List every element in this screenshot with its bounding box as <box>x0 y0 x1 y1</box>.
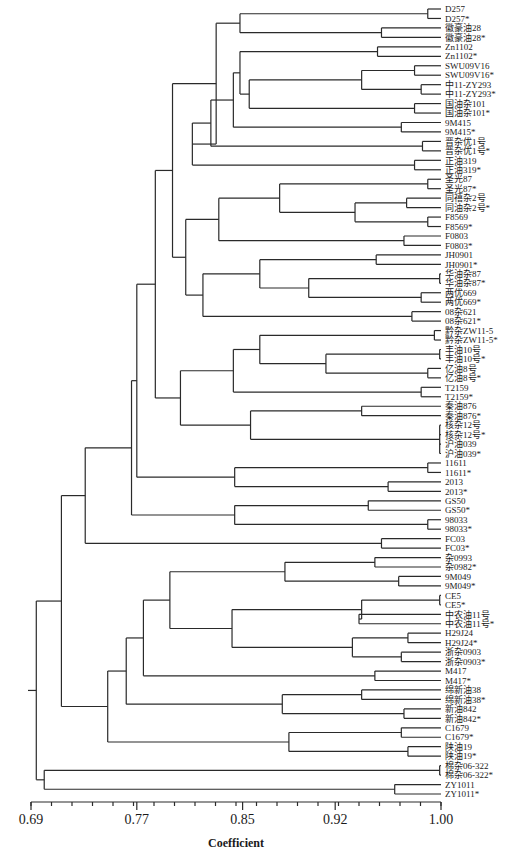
dendrogram-chart: D257D257*徽豪油28徽豪油28*Zn1102Zn1102*SWU09V1… <box>0 0 523 859</box>
leaf-label: 圣光87* <box>445 183 477 194</box>
leaf-label: 晋杂优1号 <box>445 136 486 147</box>
leaf-label: 新油842 <box>445 703 477 714</box>
leaf-label: 绵新油38* <box>445 694 486 705</box>
leaf-label: 晋杂优1号* <box>445 145 491 156</box>
leaf-label: 丰油10号 <box>445 344 481 355</box>
leaf-label: 核杂12号* <box>445 429 486 440</box>
leaf-label: 秦油876* <box>445 410 482 421</box>
leaf-label: 徽豪油28* <box>445 32 486 43</box>
leaf-label: 沪油039 <box>445 438 477 449</box>
leaf-label: 浙杂0903 <box>445 646 482 657</box>
x-tick-label: 0.77 <box>125 812 150 827</box>
x-axis-title: Coefficient <box>208 836 264 850</box>
leaf-label: 正油319 <box>445 155 477 166</box>
x-tick-label: 1.00 <box>429 812 454 827</box>
x-axis: 0.690.770.850.921.00 <box>19 802 454 827</box>
leaf-label: ZY1011* <box>445 789 480 799</box>
leaf-label: 陕油19 <box>445 741 473 752</box>
leaf-label: 圣光87 <box>445 173 473 184</box>
leaf-label: 绵新油38 <box>445 684 482 695</box>
x-tick-label: 0.85 <box>230 812 255 827</box>
leaf-label: 华油杂87 <box>445 268 482 279</box>
leaf-label: 两优669 <box>445 287 477 298</box>
x-tick-label: 0.92 <box>323 812 348 827</box>
leaf-label: 亿油8号* <box>445 372 482 383</box>
leaf-label: 国油杂101* <box>445 107 491 118</box>
leaf-label: 正油319* <box>445 164 482 175</box>
dendrogram-branches <box>28 9 441 794</box>
leaf-label: 棉杂06-322 <box>445 760 489 771</box>
leaf-label: 浙杂0903* <box>445 656 486 667</box>
leaf-label: 棉杂06-322* <box>445 769 493 780</box>
leaf-label: 陕油19* <box>445 750 477 761</box>
leaf-label: 国油杂101 <box>445 98 486 109</box>
leaf-label: 黔杂ZW11-5* <box>445 334 498 345</box>
leaf-label: 同禧杂2号 <box>445 192 486 203</box>
leaf-label: 沪油039* <box>445 448 482 459</box>
leaf-label: 中11-ZY293 <box>445 79 492 90</box>
leaf-label: 华油杂87* <box>445 277 486 288</box>
leaf-label: 中农油11号* <box>445 618 495 629</box>
leaf-label: 徽豪油28 <box>445 22 482 33</box>
leaf-label: 丰油10号* <box>445 353 486 364</box>
leaf-label: 同油杂2号* <box>445 202 491 213</box>
leaf-label: 秦油876 <box>445 400 477 411</box>
leaf-label: 亿油8号 <box>445 363 477 374</box>
x-tick-label: 0.69 <box>19 812 44 827</box>
leaf-label: 中11-ZY293* <box>445 88 496 99</box>
leaf-label: 中农油11号 <box>445 609 490 620</box>
leaf-label: 两优669* <box>445 296 482 307</box>
leaf-labels: D257D257*徽豪油28徽豪油28*Zn1102Zn1102*SWU09V1… <box>445 4 498 799</box>
leaf-label: 黔杂ZW11-5 <box>445 325 494 336</box>
leaf-label: 新油842* <box>445 713 482 724</box>
leaf-label: 核杂12号 <box>445 419 481 430</box>
